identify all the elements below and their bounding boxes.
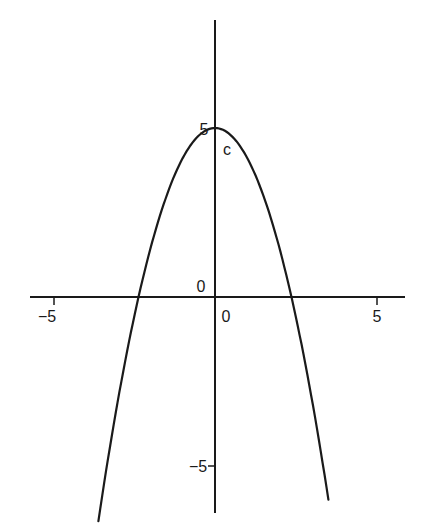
x-axis: −5 5 0: [30, 297, 405, 325]
parabola-chart: −5 5 0 5 −5 0 c: [0, 0, 429, 531]
x-zero-label: 0: [222, 308, 231, 325]
y-zero-label: 0: [197, 278, 206, 295]
x-tick-label-5: 5: [373, 308, 382, 325]
y-tick-label-neg5: −5: [189, 458, 207, 475]
y-axis: 5 −5 0: [189, 20, 215, 513]
vertex-label-c: c: [223, 141, 231, 158]
x-tick-label-neg5: −5: [38, 308, 56, 325]
parabola-curve: [98, 128, 328, 521]
